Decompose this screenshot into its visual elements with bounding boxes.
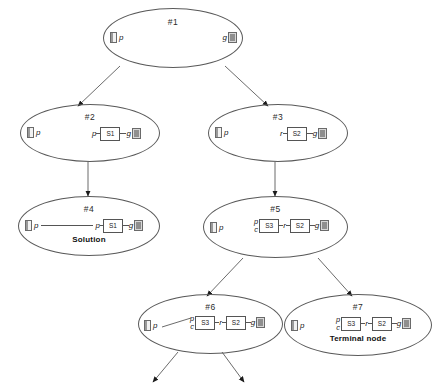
edge-6-openleft (153, 352, 178, 382)
node-left-item: p (215, 127, 228, 138)
literal-p: p (300, 321, 304, 330)
tree-node-3[interactable]: #3 p r S2 g (208, 104, 348, 162)
card-pictogram-icon (144, 320, 151, 331)
literal-g: g (397, 319, 401, 328)
chain-box-s2[interactable]: S2 (372, 317, 392, 331)
tree-node-4[interactable]: #4 p p S1 g Solution (18, 196, 160, 256)
node-left-item: p (291, 320, 304, 331)
literal-g: g (313, 129, 317, 138)
card-pictogram-icon (27, 127, 34, 138)
node-left-item: p (210, 222, 223, 233)
card-pictogram-icon (210, 222, 217, 233)
node-annotation: Solution (18, 235, 160, 244)
node-label: #2 (20, 112, 160, 122)
chain-precondition-stack: p c (254, 218, 258, 234)
node-label: #7 (284, 302, 432, 312)
goal-pictogram-icon (134, 220, 143, 231)
chain-precondition-stack: p c (336, 316, 340, 332)
node-label: #3 (208, 112, 348, 122)
stack-bottom-c: c (190, 323, 194, 331)
chain-box-s3[interactable]: S3 (195, 316, 215, 330)
node-left-item: p p S1 g (25, 219, 143, 233)
goal-pictogram-icon (132, 128, 141, 139)
edge-6-openright (222, 352, 244, 382)
tree-node-1[interactable]: #1 p g (103, 8, 243, 68)
literal-p: p (34, 221, 38, 230)
card-pictogram-icon (25, 220, 32, 231)
tree-node-2[interactable]: #2 p p S1 g (20, 104, 160, 162)
node-label: #4 (18, 204, 160, 214)
card-pictogram-icon (291, 320, 298, 331)
goal-pictogram-icon (318, 128, 327, 139)
node-label: #6 (138, 302, 283, 312)
chain-box-s2[interactable]: S2 (226, 316, 246, 330)
node-label: #5 (203, 204, 348, 214)
literal-p: p (119, 33, 123, 42)
literal-g: g (129, 221, 133, 230)
literal-p: p (219, 223, 223, 232)
chain-box-s1[interactable]: S1 (100, 127, 120, 141)
edge-5-7 (318, 258, 352, 296)
goal-pictogram-icon (402, 318, 411, 329)
goal-pictogram-icon (320, 220, 329, 231)
node-label: #1 (103, 17, 243, 27)
tree-node-7[interactable]: #7 p p c S3 r S2 g Terminal node (284, 294, 432, 356)
literal-p: p (36, 128, 40, 137)
chain-box-s2[interactable]: S2 (287, 127, 307, 141)
stack-bottom-c: c (336, 324, 340, 332)
chain-precondition-stack: p c (190, 315, 194, 331)
goal-pictogram-icon (256, 317, 265, 328)
literal-g: g (223, 33, 227, 42)
literal-g: g (251, 318, 255, 327)
tree-node-5[interactable]: #5 p p c S3 r S2 g (203, 196, 348, 258)
literal-p: p (153, 321, 157, 330)
diagram-canvas: #1 p g #2 p p S1 g #3 p (0, 0, 436, 388)
literal-g: g (126, 129, 130, 138)
node-left-item: p (27, 127, 40, 138)
node-chain: p S1 g (92, 127, 141, 141)
node-left-item: p (144, 320, 157, 331)
node-chain: p c S3 r S2 g (336, 316, 411, 332)
chain-box-s2[interactable]: S2 (290, 219, 310, 233)
stack-bottom-c: c (254, 226, 258, 234)
chain-long-connector (41, 225, 93, 226)
literal-p: p (224, 128, 228, 137)
card-pictogram-icon (110, 32, 117, 43)
edge-1-3 (225, 66, 268, 106)
chain-box-s3[interactable]: S3 (259, 219, 279, 233)
chain-box-s1[interactable]: S1 (103, 219, 123, 233)
node-left-item: p (110, 32, 123, 43)
edge-5-6 (207, 258, 243, 296)
node-chain: p c S3 r S2 g (254, 218, 329, 234)
node-chain: p c S3 r S2 g (190, 315, 265, 331)
node-annotation: Terminal node (284, 334, 432, 343)
card-pictogram-icon (215, 127, 222, 138)
goal-pictogram-icon (228, 32, 237, 43)
tree-node-6[interactable]: #6 p p c S3 r S2 g (138, 294, 283, 354)
edge-1-2 (78, 66, 120, 106)
literal-g: g (315, 221, 319, 230)
node-chain: r S2 g (280, 127, 327, 141)
node-right-item: g (223, 32, 237, 43)
chain-box-s3[interactable]: S3 (341, 317, 361, 331)
node6-inner-connector (162, 316, 192, 330)
